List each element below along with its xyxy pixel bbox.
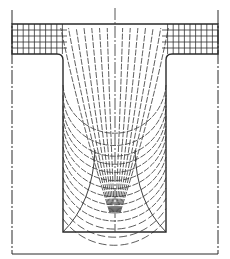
stem-radial-right xyxy=(118,28,146,212)
stem-radial-left xyxy=(69,28,111,212)
t-section-diagram xyxy=(0,0,230,259)
stem-radial-right xyxy=(120,28,161,212)
stem-radial-left xyxy=(92,28,113,212)
stem-arc xyxy=(63,85,166,133)
diagram-canvas xyxy=(0,0,230,259)
stem-arc xyxy=(63,198,166,229)
stem-radial-left xyxy=(61,28,110,212)
base-diagonal-left xyxy=(63,150,95,232)
stem-radial-right xyxy=(120,28,168,212)
stem-arc xyxy=(63,116,166,164)
stem-radial-left xyxy=(84,28,112,212)
stem-radial-right xyxy=(117,28,131,212)
stem-radial-left xyxy=(100,28,114,212)
